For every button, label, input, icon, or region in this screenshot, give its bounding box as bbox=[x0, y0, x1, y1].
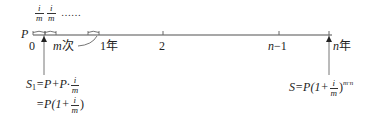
tick-label-1-year: 1年 bbox=[100, 40, 118, 52]
tick-label-n-year: n年 bbox=[333, 40, 351, 52]
formula-s1-line2: =P(1+im) bbox=[36, 96, 84, 115]
top-fraction-1: im bbox=[34, 4, 45, 23]
right-arrow-head bbox=[326, 36, 332, 42]
left-arrow-head bbox=[41, 36, 47, 42]
formula-s1-line1: S1=P+P·im bbox=[26, 76, 80, 95]
top-ellipsis: …… bbox=[61, 8, 81, 18]
period-label: m次 bbox=[53, 40, 74, 52]
top-fraction-2: im bbox=[46, 4, 57, 23]
tick-label-n-minus-1: n−1 bbox=[268, 40, 287, 52]
tick-label-2: 2 bbox=[159, 40, 165, 52]
tick-label-0: 0 bbox=[29, 40, 35, 52]
formula-s-final: S=P(1+im)m·n bbox=[289, 79, 353, 98]
principal-label: P bbox=[21, 28, 28, 40]
m-period-curve bbox=[78, 36, 97, 46]
